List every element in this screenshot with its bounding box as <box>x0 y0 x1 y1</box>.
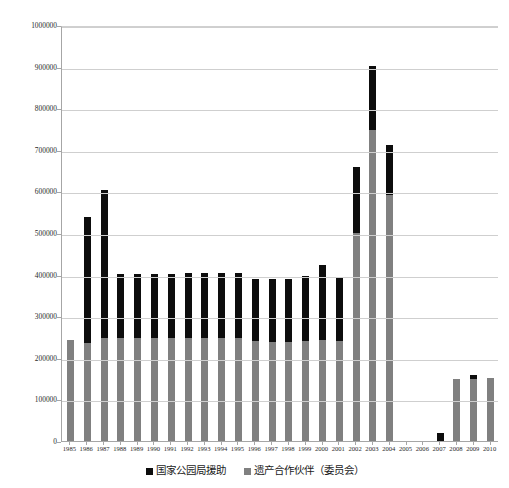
bar-segment[interactable] <box>336 278 343 341</box>
x-tick-label: 1998 <box>280 446 297 453</box>
bar-group[interactable] <box>218 25 225 441</box>
bar-group[interactable] <box>285 25 292 441</box>
bar-segment[interactable] <box>168 274 175 338</box>
x-tick-label: 2005 <box>397 446 414 453</box>
bar-group[interactable] <box>201 25 208 441</box>
bar-segment[interactable] <box>252 341 259 441</box>
bar-segment[interactable] <box>151 338 158 441</box>
y-tick-label: 0 <box>4 438 57 445</box>
bar-group[interactable] <box>470 25 477 441</box>
bar-segment[interactable] <box>201 273 208 338</box>
bar-group[interactable] <box>101 25 108 441</box>
bar-segment[interactable] <box>185 273 192 338</box>
bar-segment[interactable] <box>369 130 376 441</box>
bar-segment[interactable] <box>369 66 376 130</box>
bar-segment[interactable] <box>353 167 360 233</box>
bar-segment[interactable] <box>336 341 343 441</box>
bar-segment[interactable] <box>84 217 91 343</box>
bar-segment[interactable] <box>285 342 292 441</box>
legend-swatch-icon <box>244 468 251 475</box>
bar-group[interactable] <box>134 25 141 441</box>
y-tick-label: 1000000 <box>4 22 57 29</box>
x-tick-label: 1987 <box>95 446 112 453</box>
gridline <box>62 152 498 153</box>
bar-segment[interactable] <box>168 338 175 441</box>
x-tick-label: 1995 <box>229 446 246 453</box>
bar-segment[interactable] <box>235 338 242 441</box>
bar-group[interactable] <box>252 25 259 441</box>
bar-segment[interactable] <box>470 375 477 379</box>
bar-segment[interactable] <box>285 279 292 342</box>
bar-segment[interactable] <box>134 338 141 441</box>
bar-segment[interactable] <box>269 342 276 441</box>
y-axis: 0100000200000300000400000500000600000700… <box>0 0 57 488</box>
bar-segment[interactable] <box>151 274 158 338</box>
bar-segment[interactable] <box>453 379 460 441</box>
y-tick-label: 300000 <box>4 313 57 320</box>
bar-segment[interactable] <box>302 276 309 341</box>
bar-segment[interactable] <box>437 433 444 441</box>
x-tick-label: 2007 <box>431 446 448 453</box>
legend-swatch-icon <box>146 468 153 475</box>
x-tick-label: 1999 <box>296 446 313 453</box>
x-tick-label: 2003 <box>364 446 381 453</box>
bar-segment[interactable] <box>252 279 259 341</box>
bar-group[interactable] <box>168 25 175 441</box>
bar-segment[interactable] <box>302 341 309 441</box>
y-tick-label: 700000 <box>4 147 57 154</box>
bar-group[interactable] <box>185 25 192 441</box>
bar-group[interactable] <box>487 25 494 441</box>
gridline <box>62 318 498 319</box>
bar-segment[interactable] <box>218 273 225 338</box>
bar-series-container <box>62 27 498 441</box>
legend-item[interactable]: 遗产合作伙伴（委员会） <box>244 466 364 477</box>
bar-segment[interactable] <box>101 190 108 338</box>
bar-group[interactable] <box>403 25 410 441</box>
bar-segment[interactable] <box>84 343 91 441</box>
bar-group[interactable] <box>84 25 91 441</box>
bar-group[interactable] <box>319 25 326 441</box>
bar-group[interactable] <box>453 25 460 441</box>
y-tick-label: 400000 <box>4 272 57 279</box>
legend-item[interactable]: 国家公园局援助 <box>146 466 226 477</box>
bar-group[interactable] <box>386 25 393 441</box>
x-tick-label: 1986 <box>78 446 95 453</box>
bar-group[interactable] <box>67 25 74 441</box>
legend-label: 国家公园局援助 <box>156 466 226 477</box>
bar-group[interactable] <box>353 25 360 441</box>
bar-segment[interactable] <box>134 274 141 338</box>
bar-segment[interactable] <box>487 378 494 441</box>
y-tick-label: 100000 <box>4 396 57 403</box>
bar-segment[interactable] <box>185 338 192 441</box>
bar-segment[interactable] <box>269 279 276 342</box>
x-tick-label: 1989 <box>128 446 145 453</box>
bar-segment[interactable] <box>67 340 74 441</box>
y-tick-label: 900000 <box>4 64 57 71</box>
bar-segment[interactable] <box>101 338 108 441</box>
bar-segment[interactable] <box>218 338 225 441</box>
y-tick-label: 600000 <box>4 188 57 195</box>
bar-segment[interactable] <box>470 379 477 441</box>
bar-segment[interactable] <box>201 338 208 441</box>
bar-group[interactable] <box>235 25 242 441</box>
x-tick-label: 1996 <box>246 446 263 453</box>
x-tick-label: 1988 <box>111 446 128 453</box>
bar-segment[interactable] <box>319 340 326 441</box>
gridline <box>62 235 498 236</box>
bar-group[interactable] <box>369 25 376 441</box>
y-tick-label: 200000 <box>4 355 57 362</box>
bar-chart: 0100000200000300000400000500000600000700… <box>0 0 509 488</box>
bar-segment[interactable] <box>353 233 360 441</box>
bar-group[interactable] <box>269 25 276 441</box>
bar-segment[interactable] <box>117 274 124 338</box>
x-tick-label: 2006 <box>414 446 431 453</box>
gridline <box>62 277 498 278</box>
bar-group[interactable] <box>117 25 124 441</box>
bar-segment[interactable] <box>117 338 124 441</box>
bar-group[interactable] <box>420 25 427 441</box>
bar-segment[interactable] <box>235 273 242 338</box>
bar-group[interactable] <box>336 25 343 441</box>
bar-group[interactable] <box>437 25 444 441</box>
bar-group[interactable] <box>302 25 309 441</box>
bar-group[interactable] <box>151 25 158 441</box>
